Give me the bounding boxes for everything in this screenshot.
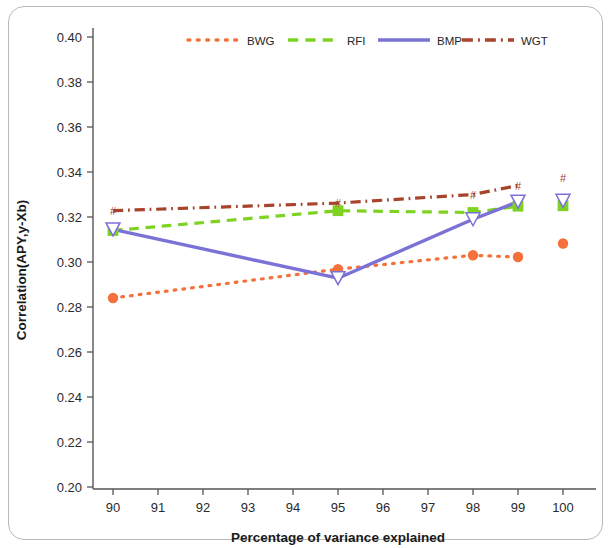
y-tick-label: 0.28: [57, 300, 82, 315]
legend-label-rfi: RFI: [347, 35, 366, 47]
marker-wgt: #: [110, 205, 117, 217]
y-axis-ticks: 0.200.220.240.260.280.300.320.340.360.38…: [57, 30, 93, 495]
y-axis-label: Correlation(APY,y-Xb): [14, 200, 29, 340]
marker-wgt: #: [470, 189, 477, 201]
legend-label-bmp: BMP: [437, 35, 462, 47]
y-tick-label: 0.22: [57, 435, 82, 450]
x-axis-ticks: 90919293949596979899100: [106, 489, 574, 515]
marker-bwg: [513, 252, 523, 262]
series-lines: [113, 186, 518, 299]
series-markers: #####: [106, 172, 570, 303]
legend-label-bwg: BWG: [247, 35, 275, 47]
x-tick-label: 94: [286, 500, 300, 515]
marker-wgt: #: [560, 172, 567, 184]
legend-label-wgt: WGT: [521, 35, 548, 47]
marker-wgt: #: [335, 197, 342, 209]
marker-bmp: [466, 213, 480, 226]
chart-legend: BWGRFIBMPWGT: [188, 35, 548, 47]
chart-plot-area: 0.200.220.240.260.280.300.320.340.360.38…: [0, 0, 611, 548]
y-tick-label: 0.36: [57, 120, 82, 135]
figure-container: 0.200.220.240.260.280.300.320.340.360.38…: [0, 0, 611, 548]
y-tick-label: 0.24: [57, 390, 82, 405]
y-tick-label: 0.30: [57, 255, 82, 270]
y-tick-label: 0.38: [57, 75, 82, 90]
y-tick-label: 0.40: [57, 30, 82, 45]
marker-wgt: #: [515, 180, 522, 192]
x-tick-label: 99: [511, 500, 525, 515]
marker-bwg: [558, 238, 568, 248]
marker-bwg: [108, 293, 118, 303]
x-tick-label: 90: [106, 500, 120, 515]
x-axis-label: Percentage of variance explained: [231, 530, 445, 545]
x-tick-label: 96: [376, 500, 390, 515]
x-tick-label: 98: [466, 500, 480, 515]
x-tick-label: 100: [552, 500, 574, 515]
y-tick-label: 0.34: [57, 165, 82, 180]
x-tick-label: 93: [241, 500, 255, 515]
x-tick-label: 97: [421, 500, 435, 515]
marker-bwg: [468, 250, 478, 260]
x-tick-label: 92: [196, 500, 210, 515]
y-tick-label: 0.20: [57, 480, 82, 495]
y-tick-label: 0.26: [57, 345, 82, 360]
x-tick-label: 95: [331, 500, 345, 515]
series-line-wgt: [113, 186, 518, 211]
series-line-bwg: [113, 255, 518, 298]
y-tick-label: 0.32: [57, 210, 82, 225]
x-tick-label: 91: [151, 500, 165, 515]
